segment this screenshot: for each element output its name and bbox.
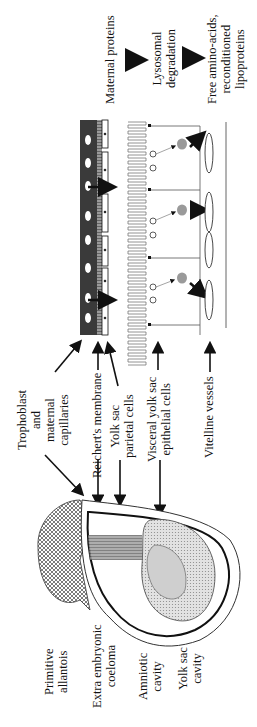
label-line: and — [29, 390, 43, 450]
label-lysosomal-degradation: Lysosomal degradation — [150, 29, 178, 88]
label-line: capillaries — [57, 390, 71, 450]
label-visceral-yolk-sac: Visceral yolk sac epithelial cells — [145, 377, 173, 462]
label-line: parietal cells — [122, 394, 136, 458]
visceral-epithelium — [128, 122, 200, 365]
label-line: Free amino-acids, — [205, 14, 219, 104]
label-trophoblast: Trophoblast and maternal capillaries — [15, 390, 71, 450]
label-line: cavity — [190, 647, 204, 690]
parietal-cells — [102, 120, 108, 335]
label-line: coeloma — [104, 624, 118, 708]
diagram-canvas — [0, 0, 257, 727]
label-vitelline-vessels: Vitelline vessels — [202, 376, 216, 458]
embryo-section — [38, 500, 240, 646]
label-line: degradation — [164, 29, 178, 88]
label-line: Extra embryonic — [90, 624, 104, 708]
label-primitive-allantois: Primitive allantois — [42, 648, 70, 695]
label-line: lipoproteins — [233, 14, 247, 104]
label-line: Yolk sac — [108, 394, 122, 458]
label-line: maternal — [43, 390, 57, 450]
label-line: reconditioned — [219, 14, 233, 104]
label-line: Visceral yolk sac — [145, 377, 159, 462]
vitelline-vessels — [205, 133, 213, 320]
label-line: Primitive — [42, 648, 56, 695]
label-extra-embryonic-coeloma: Extra embryonic coeloma — [90, 624, 118, 708]
label-line: cavity — [150, 653, 164, 700]
lysosomes — [177, 139, 187, 284]
label-yolk-sac-cavity: Yolk sac cavity — [176, 647, 204, 690]
label-line: allantois — [56, 648, 70, 695]
label-line: epithelial cells — [159, 377, 173, 462]
reicherts-membrane — [97, 120, 102, 335]
label-line: Trophoblast — [15, 390, 29, 450]
label-line: Lysosomal — [150, 29, 164, 88]
label-maternal-proteins: Maternal proteins — [103, 15, 117, 104]
label-line: Yolk sac — [176, 647, 190, 690]
label-reicherts-membrane: Reichert's membrane — [90, 373, 104, 478]
label-line: Amniotic — [136, 653, 150, 700]
label-free-amino-acids: Free amino-acids, reconditioned lipoprot… — [205, 14, 247, 104]
label-amniotic-cavity: Amniotic cavity — [136, 653, 164, 700]
label-parietal-cells: Yolk sac parietal cells — [108, 394, 136, 458]
